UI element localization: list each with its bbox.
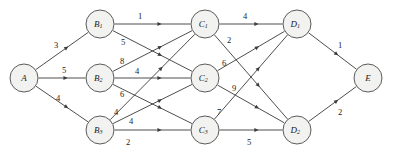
edge-d1-e xyxy=(309,33,357,69)
node-label-sub-b3: 3 xyxy=(98,129,102,135)
edge-weight-c3-d1: 7 xyxy=(217,107,221,117)
node-label-e: E xyxy=(364,73,371,83)
node-c1[interactable]: C1 xyxy=(191,10,219,38)
arrowhead-a-b2 xyxy=(63,76,67,80)
node-a[interactable]: A xyxy=(10,64,38,92)
node-label-sub-c2: 2 xyxy=(205,77,208,83)
node-label-sub-d1: 1 xyxy=(297,23,300,29)
edge-weight-b2-c2: 4 xyxy=(135,66,140,76)
node-d2[interactable]: D2 xyxy=(283,116,311,144)
nodes-layer: AB1B2B3C1C2C3D1D2E xyxy=(10,10,382,144)
node-b1[interactable]: B1 xyxy=(86,10,114,38)
node-b3[interactable]: B3 xyxy=(86,116,114,144)
node-c2[interactable]: C2 xyxy=(191,64,219,92)
node-e[interactable]: E xyxy=(354,64,382,92)
arrowhead-b1-c1 xyxy=(157,22,161,26)
edge-weight-b2-c1: 8 xyxy=(120,56,124,66)
edge-b3-c1 xyxy=(110,34,195,119)
arrowhead-c3-d2 xyxy=(254,128,258,132)
node-label-sub-b2: 2 xyxy=(99,77,102,83)
arrowhead-c1-d1 xyxy=(254,22,258,26)
edge-weight-c1-d2: 2 xyxy=(227,35,231,45)
arrowhead-d2-e xyxy=(334,100,339,104)
edge-weight-b3-c3: 2 xyxy=(126,137,130,147)
arrowhead-a-b3 xyxy=(64,104,69,108)
node-label-a: A xyxy=(20,73,27,83)
node-label-base-a: A xyxy=(20,73,27,83)
node-d1[interactable]: D1 xyxy=(283,10,311,38)
network-canvas: 3541584644242697512 AB1B2B3C1C2C3D1D2E xyxy=(0,0,393,157)
edge-weight-c3-d2: 5 xyxy=(247,137,251,147)
node-b2[interactable]: B2 xyxy=(86,64,114,92)
edge-weight-a-b1: 3 xyxy=(54,40,58,50)
edge-weight-b1-c1: 1 xyxy=(138,11,142,21)
edge-weight-d1-e: 1 xyxy=(338,40,342,50)
edge-weight-c1-d1: 4 xyxy=(243,11,248,21)
arrowhead-d1-e xyxy=(334,51,339,55)
edge-weight-c2-d1: 6 xyxy=(222,58,226,68)
edge-weight-c2-d2: 9 xyxy=(232,83,236,93)
edge-d2-e xyxy=(309,87,357,122)
edge-weight-a-b2: 5 xyxy=(62,65,66,75)
edge-weight-d2-e: 2 xyxy=(338,107,342,117)
node-label-sub-c3: 3 xyxy=(204,129,208,135)
arrowhead-b3-c3 xyxy=(157,128,161,132)
node-label-sub-d2: 2 xyxy=(297,129,300,135)
arrowhead-a-b1 xyxy=(64,47,69,51)
edge-weight-b3-c2: 4 xyxy=(129,116,134,126)
edge-weight-a-b3: 4 xyxy=(56,93,61,103)
node-label-sub-c1: 1 xyxy=(205,23,208,29)
arrowhead-b2-c2 xyxy=(157,76,161,80)
node-label-sub-b1: 1 xyxy=(99,23,102,29)
edge-weight-b2-c3: 6 xyxy=(120,89,124,99)
node-c3[interactable]: C3 xyxy=(191,116,219,144)
flow-network-diagram: 3541584644242697512 AB1B2B3C1C2C3D1D2E xyxy=(0,0,393,157)
node-label-base-e: E xyxy=(364,73,371,83)
edge-a-b3 xyxy=(36,86,88,122)
edge-weight-b1-c2: 5 xyxy=(121,37,125,47)
